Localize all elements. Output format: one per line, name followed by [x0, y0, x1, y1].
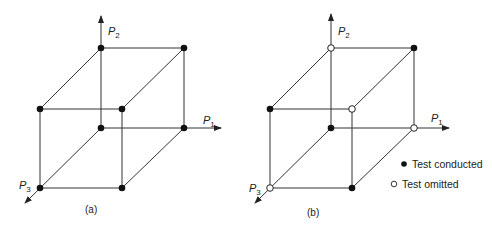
p3-axis	[25, 128, 101, 203]
p3-label: P3	[249, 182, 261, 197]
vertex-conducted-icon	[37, 106, 44, 113]
vertex-omitted-icon	[349, 106, 356, 113]
p3-axis	[255, 128, 331, 203]
factorial-design-diagram: P2 P1 P3 (a) P2	[0, 0, 493, 230]
vertex-omitted-icon	[411, 125, 418, 132]
vertex-conducted-icon	[349, 185, 356, 192]
legend: Test conducted Test omitted	[391, 158, 483, 190]
legend-conducted-label: Test conducted	[412, 158, 483, 170]
vertex-conducted-icon	[37, 185, 44, 192]
panel-b: P2 P1 P3 (b) Test conducted Test omitted	[249, 14, 483, 218]
vertex-omitted-icon	[328, 45, 335, 52]
legend-omitted-label: Test omitted	[402, 178, 459, 190]
p1-label: P1	[431, 112, 443, 127]
vertex-conducted-icon	[98, 125, 105, 132]
vertex-conducted-icon	[181, 45, 188, 52]
caption-a: (a)	[85, 204, 97, 215]
p3-label: P3	[19, 179, 31, 194]
p2-label: P2	[338, 25, 350, 40]
vertex-conducted-icon	[181, 125, 188, 132]
vertex-conducted-icon	[119, 106, 126, 113]
conducted-dot-icon	[401, 161, 407, 167]
p1-label: P1	[203, 114, 215, 129]
vertex-omitted-icon	[267, 185, 274, 192]
vertex-conducted-icon	[328, 125, 335, 132]
caption-b: (b)	[307, 207, 319, 218]
vertex-conducted-icon	[267, 106, 274, 113]
vertex-conducted-icon	[98, 45, 105, 52]
panel-a: P2 P1 P3 (a)	[19, 16, 221, 215]
vertex-conducted-icon	[411, 45, 418, 52]
p2-label: P2	[108, 25, 120, 40]
vertex-conducted-icon	[119, 185, 126, 192]
omitted-dot-icon	[391, 181, 397, 187]
